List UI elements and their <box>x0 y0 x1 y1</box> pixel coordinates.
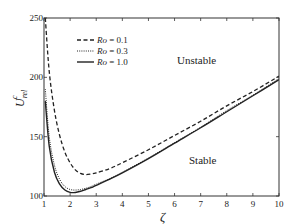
x-tick-label: 2 <box>68 199 73 209</box>
axes-frame <box>44 18 279 196</box>
plot-area <box>45 18 279 193</box>
x-tick-label: 10 <box>275 199 285 209</box>
x-tick-label: 3 <box>94 199 99 209</box>
y-tick-label: 100 <box>30 191 44 201</box>
axes <box>44 18 279 196</box>
x-tick-label: 5 <box>146 199 151 209</box>
x-tick-label: 7 <box>198 199 203 209</box>
unstable-label: Unstable <box>177 54 216 66</box>
x-tick-label: 9 <box>251 199 256 209</box>
y-axis-label-sup: c <box>10 95 19 99</box>
x-axis-label: ζ <box>160 209 166 224</box>
legend: Ro = 0.1Ro = 0.3Ro = 1.0 <box>77 35 128 67</box>
legend-label: Ro = 1.0 <box>96 57 128 67</box>
y-tick-label: 250 <box>30 13 44 23</box>
y-axis-label-sub: rel <box>20 89 29 98</box>
y-tick-label: 150 <box>30 132 44 142</box>
x-tick-label: 6 <box>172 199 177 209</box>
legend-label: Ro = 0.1 <box>96 35 128 45</box>
stable-label: Stable <box>189 154 217 166</box>
y-axis-label: Urel c <box>10 89 29 107</box>
legend-label: Ro = 0.3 <box>96 46 128 56</box>
y-tick-label: 200 <box>30 72 44 82</box>
chart: 12345678910100150200250 Unstable Stable … <box>0 0 299 224</box>
x-tick-label: 8 <box>225 199 230 209</box>
x-tick-label: 4 <box>120 199 125 209</box>
tick-labels: 12345678910100150200250 <box>30 13 285 209</box>
